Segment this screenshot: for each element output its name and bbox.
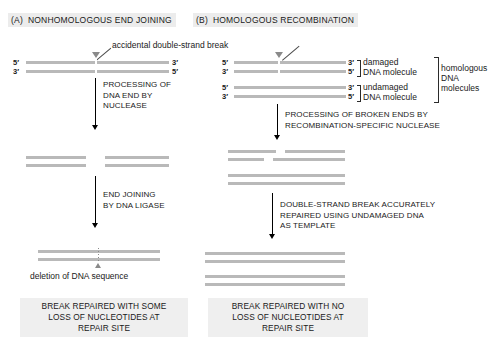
panel-b-step2-text: DOUBLE-STRAND BREAK ACCURATELY REPAIRED … bbox=[280, 200, 435, 232]
label-damaged-molecule: damaged DNA molecule bbox=[363, 57, 417, 77]
dna-strand-bottom-a1 bbox=[26, 70, 169, 73]
dna-strand-bottom-homolog-b3 bbox=[228, 182, 345, 185]
break-marker-triangle-b bbox=[275, 52, 283, 58]
panel-a-arrow1-line bbox=[95, 78, 96, 126]
panel-b-arrow1-head bbox=[274, 135, 280, 140]
prime-5-left-a1: 5′ bbox=[13, 58, 19, 67]
dna-strand-bottom-b1 bbox=[234, 70, 346, 73]
prime-3-left-a1: 3′ bbox=[13, 67, 19, 76]
dna-strand-top-b4a bbox=[205, 252, 345, 255]
panel-a-step1-text: PROCESSING OF DNA END BY NUCLEASE bbox=[103, 80, 171, 112]
prime-3-right-a1: 3′ bbox=[172, 58, 178, 67]
panel-b-arrow1-line bbox=[277, 104, 278, 136]
deletion-marker-triangle bbox=[95, 263, 101, 268]
bracket-undamaged bbox=[357, 85, 361, 102]
panel-b-title: HOMOLOGOUS RECOMBINATION bbox=[213, 15, 354, 25]
prime-5-right-b1: 5′ bbox=[348, 67, 354, 76]
dna-strand-bottom-b2 bbox=[234, 95, 346, 98]
panel-a-title: NONHOMOLOGOUS END JOINING bbox=[28, 15, 172, 25]
panel-a-header: (A)NONHOMOLOGOUS END JOINING bbox=[8, 13, 176, 27]
panel-b-conclusion: BREAK REPAIRED WITH NO LOSS OF NUCLEOTID… bbox=[208, 298, 368, 337]
dna-strand-bottom-left-b3 bbox=[228, 158, 264, 161]
deletion-dotted-marker bbox=[98, 248, 99, 262]
dna-strand-top-left-b3 bbox=[228, 150, 276, 153]
label-homologous-molecules: homologous DNA molecules bbox=[441, 63, 487, 93]
prime-5-right-b2: 5′ bbox=[348, 92, 354, 101]
dna-strand-bottom-right-b3 bbox=[273, 158, 345, 161]
panel-a-conclusion: BREAK REPAIRED WITH SOME LOSS OF NUCLEOT… bbox=[20, 298, 188, 337]
bracket-damaged bbox=[357, 60, 361, 77]
prime-5-left-b2: 5′ bbox=[222, 83, 228, 92]
prime-3-right-b2: 3′ bbox=[348, 83, 354, 92]
label-undamaged-molecule: undamaged DNA molecule bbox=[363, 82, 417, 102]
dna-strand-bottom-b4b bbox=[205, 283, 345, 286]
dna-strand-top-left-a2 bbox=[26, 156, 86, 159]
dna-strand-bottom-right-a2 bbox=[105, 164, 169, 167]
dna-strand-top-homolog-b3 bbox=[228, 174, 345, 177]
dna-strand-top-b2 bbox=[234, 86, 346, 89]
dna-strand-bottom-left-a2 bbox=[26, 164, 86, 167]
dna-strand-top-right-a2 bbox=[105, 156, 169, 159]
callout-leader-line-b bbox=[282, 46, 299, 61]
prime-3-left-b1: 3′ bbox=[222, 67, 228, 76]
break-gap-a bbox=[95, 59, 97, 75]
callout-accidental-break: accidental double-strand break bbox=[112, 40, 228, 50]
panel-a-tag: (A) bbox=[11, 15, 23, 25]
panel-a-arrow2-line bbox=[95, 176, 96, 224]
deletion-caption: deletion of DNA sequence bbox=[30, 271, 128, 281]
prime-5-right-a1: 5′ bbox=[172, 67, 178, 76]
prime-5-left-b1: 5′ bbox=[222, 58, 228, 67]
dna-strand-top-a1 bbox=[26, 61, 169, 64]
dna-strand-top-b4b bbox=[205, 275, 345, 278]
dna-strand-bottom-b4a bbox=[205, 260, 345, 263]
break-marker-triangle-a bbox=[92, 52, 100, 58]
panel-a-arrow2-head bbox=[92, 223, 98, 228]
panel-b-tag: (B) bbox=[196, 15, 208, 25]
break-gap-b bbox=[278, 59, 280, 75]
prime-3-left-b2: 3′ bbox=[222, 92, 228, 101]
panel-b-step1-text: PROCESSING OF BROKEN ENDS BY RECOMBINATI… bbox=[285, 110, 440, 131]
dna-strand-top-right-b3 bbox=[285, 150, 345, 153]
panel-a-step2-text: END JOINING BY DNA LIGASE bbox=[103, 190, 165, 211]
panel-a-arrow1-head bbox=[92, 125, 98, 130]
panel-b-header: (B)HOMOLOGOUS RECOMBINATION bbox=[193, 13, 358, 27]
panel-b-arrow2-head bbox=[269, 234, 275, 239]
bracket-homologous bbox=[434, 57, 439, 103]
prime-3-right-b1: 3′ bbox=[348, 58, 354, 67]
panel-b-arrow2-line bbox=[272, 193, 273, 235]
figure-canvas: (A)NONHOMOLOGOUS END JOINING (B)HOMOLOGO… bbox=[0, 0, 502, 354]
dna-strand-top-b1 bbox=[234, 61, 346, 64]
